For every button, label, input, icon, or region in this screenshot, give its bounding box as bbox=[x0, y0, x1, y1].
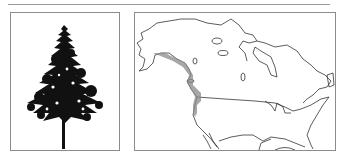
range-map-panel bbox=[134, 12, 336, 151]
range-map-icon bbox=[135, 13, 335, 150]
tree-illustration-panel bbox=[10, 12, 120, 151]
top-divider-rule bbox=[8, 4, 330, 5]
pine-tree-icon bbox=[11, 13, 119, 150]
native-range-shading bbox=[153, 53, 201, 117]
